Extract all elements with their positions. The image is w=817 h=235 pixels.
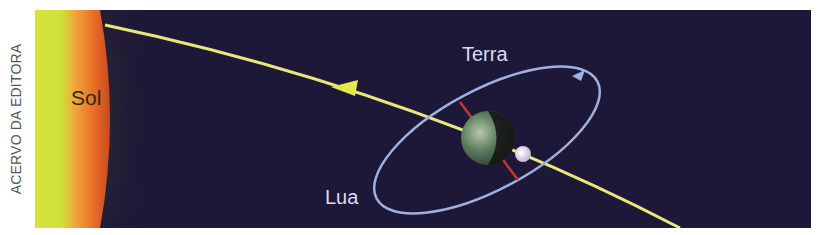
earth-label: Terra: [462, 43, 508, 66]
orbit-diagram: [35, 10, 811, 228]
earth-orbit-path: [105, 25, 680, 228]
credit-text: ACERVO DA EDITORA: [8, 44, 24, 195]
earth-graphic: [461, 111, 515, 165]
direction-arrow-icon: [331, 80, 358, 96]
sun-graphic: [35, 10, 155, 228]
moon-label: Lua: [325, 186, 358, 209]
sun-label: Sol: [71, 86, 101, 110]
diagram-panel: Sol Terra Lua: [35, 10, 811, 228]
moon-graphic: [515, 146, 531, 162]
image-credit: ACERVO DA EDITORA: [4, 10, 28, 228]
moon-orbit-arrow-icon: [572, 70, 585, 81]
